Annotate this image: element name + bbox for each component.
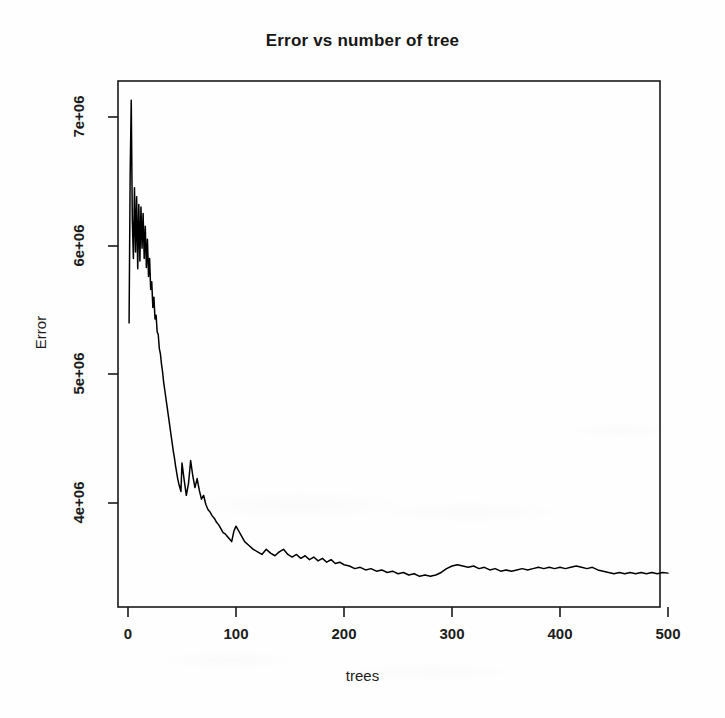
plot-area: [0, 0, 725, 718]
y-axis-ticks: [108, 117, 118, 503]
y-tick-label-7e06: 7e+06: [70, 85, 87, 149]
chart-figure: Error vs number of tree 7e+06 6e+06 5e+0…: [0, 0, 725, 718]
error-series-line: [129, 100, 668, 576]
y-tick-label-4e06: 4e+06: [70, 471, 87, 535]
y-tick-label-5e06: 5e+06: [70, 342, 87, 406]
x-tick-label-500: 500: [638, 625, 698, 642]
x-axis-ticks: [128, 607, 668, 617]
x-axis-title: trees: [0, 667, 725, 684]
plot-frame: [118, 81, 660, 607]
y-axis-title: Error: [32, 303, 49, 363]
x-tick-label-0: 0: [108, 625, 148, 642]
x-tick-label-200: 200: [314, 625, 374, 642]
y-tick-label-6e06: 6e+06: [70, 214, 87, 278]
x-tick-label-100: 100: [206, 625, 266, 642]
x-tick-label-300: 300: [422, 625, 482, 642]
x-tick-label-400: 400: [530, 625, 590, 642]
